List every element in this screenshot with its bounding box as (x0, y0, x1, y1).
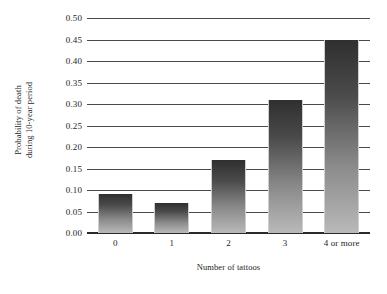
x-axis-tick-label: 2 (200, 238, 257, 254)
y-axis-tick-labels: 0.500.450.400.350.300.250.200.150.100.05… (48, 0, 85, 294)
bar-slot (144, 18, 201, 233)
y-axis-tick-label: 0.20 (66, 142, 82, 152)
y-axis-title-line-2: during 10-year period (24, 82, 35, 158)
x-axis-tick-label: 1 (144, 238, 201, 254)
bar[interactable] (211, 160, 246, 233)
y-axis-title-text: Probability of death during 10-year peri… (13, 82, 35, 158)
y-axis-tick-label: 0.35 (66, 78, 82, 88)
y-axis-tick-label: 0.05 (66, 207, 82, 217)
x-axis-tick-label: 4 or more (313, 238, 370, 254)
x-axis-title: Number of tattoos (87, 262, 370, 272)
bar[interactable] (154, 203, 189, 233)
bar[interactable] (324, 40, 359, 234)
y-axis-title-line-1: Probability of death (13, 85, 23, 155)
x-axis-tick-label: 0 (87, 238, 144, 254)
bar-slot (200, 18, 257, 233)
bar[interactable] (268, 100, 303, 233)
y-axis-tick-label: 0.40 (66, 56, 82, 66)
y-axis-title: Probability of death during 10-year peri… (0, 0, 48, 240)
y-axis-tick-label: 0.10 (66, 185, 82, 195)
y-axis-tick-label: 0.00 (66, 228, 82, 238)
bar-series (87, 18, 370, 233)
x-axis-tick-labels: 01234 or more (87, 238, 370, 254)
y-axis-tick-label: 0.50 (66, 13, 82, 23)
y-axis-tick-label: 0.15 (66, 164, 82, 174)
bar-slot (313, 18, 370, 233)
bar-slot (87, 18, 144, 233)
bar[interactable] (98, 194, 133, 233)
bar-chart-figure: Probability of death during 10-year peri… (0, 0, 387, 294)
bar-slot (257, 18, 314, 233)
y-axis-tick-label: 0.30 (66, 99, 82, 109)
x-axis-tick-label: 3 (257, 238, 314, 254)
y-axis-tick-label: 0.25 (66, 121, 82, 131)
plot-area (87, 18, 370, 233)
y-axis-tick-label: 0.45 (66, 35, 82, 45)
